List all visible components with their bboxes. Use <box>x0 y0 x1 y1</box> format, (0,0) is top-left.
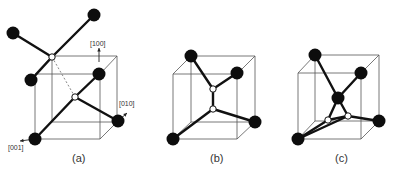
vacancy-site <box>345 113 351 119</box>
atom <box>373 115 386 128</box>
vacancy-site <box>210 106 216 112</box>
axis-label: [001] <box>8 144 24 152</box>
panel-c: (c) <box>292 49 386 165</box>
bond <box>52 15 94 57</box>
bond <box>75 97 118 121</box>
bond <box>35 97 75 139</box>
bond <box>315 55 338 98</box>
atom <box>93 68 106 81</box>
atom <box>29 133 42 146</box>
atom <box>309 49 322 62</box>
panel-a: [100][010][001](a) <box>7 9 135 165</box>
axis-arrow: [100] <box>90 40 106 62</box>
atom <box>355 67 368 80</box>
atom <box>249 116 262 129</box>
panel-caption: (c) <box>335 152 348 164</box>
panel-caption: (b) <box>210 152 223 164</box>
axis-label: [010] <box>119 100 135 108</box>
dashed-line <box>52 57 75 97</box>
atom <box>112 115 125 128</box>
atom <box>292 133 305 146</box>
atom <box>7 27 20 40</box>
atom <box>231 67 244 80</box>
vacancy-site <box>210 86 216 92</box>
bond <box>298 116 348 139</box>
panel-b: (b) <box>167 50 262 165</box>
atom <box>332 92 345 105</box>
bond <box>13 33 52 57</box>
vacancy-site <box>72 94 78 100</box>
vacancy-site <box>325 117 331 123</box>
atom <box>185 50 198 63</box>
atom <box>167 133 180 146</box>
bond <box>213 109 255 122</box>
crystal-defect-diagram: [100][010][001](a) (b) (c) <box>0 0 393 174</box>
panel-caption: (a) <box>72 152 85 164</box>
vacancy-site <box>49 54 55 60</box>
atom <box>88 9 101 22</box>
bond <box>173 109 213 139</box>
axis-label: [100] <box>90 40 106 48</box>
atom <box>25 74 38 87</box>
